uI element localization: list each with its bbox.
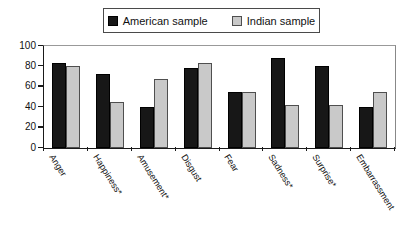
bar-indian-sample-embarrassment <box>373 92 387 148</box>
y-tick-label-60: 60 <box>0 80 36 91</box>
y-tick-40 <box>38 106 43 108</box>
legend-label-indian-sample: Indian sample <box>247 15 316 27</box>
bar-american-sample-embarrassment <box>359 107 373 148</box>
bar-american-sample-disgust <box>184 68 198 148</box>
x-tick-6 <box>306 147 307 151</box>
bar-indian-sample-surprise <box>329 105 343 148</box>
x-tick-label-fear: Fear <box>223 153 240 173</box>
x-tick-2 <box>131 147 132 151</box>
bar-american-sample-anger <box>52 63 66 148</box>
y-tick-100 <box>38 45 43 47</box>
y-tick-label-0: 0 <box>0 142 36 153</box>
legend: American sample Indian sample <box>103 8 320 33</box>
bar-american-sample-happiness <box>96 74 110 148</box>
x-tick-label-anger: Anger <box>47 153 67 178</box>
y-tick-60 <box>38 85 43 87</box>
legend-item-indian-sample: Indian sample <box>232 15 316 27</box>
bar-american-sample-fear <box>228 92 242 148</box>
indian-sample-swatch-icon <box>232 16 242 26</box>
bar-indian-sample-amusement <box>154 79 168 148</box>
y-tick-20 <box>38 126 43 128</box>
bar-indian-sample-happiness <box>110 102 124 148</box>
y-tick-label-40: 40 <box>0 101 36 112</box>
y-tick-label-80: 80 <box>0 60 36 71</box>
american-sample-swatch-icon <box>108 16 118 26</box>
y-tick-label-100: 100 <box>0 40 36 51</box>
bar-american-sample-amusement <box>140 107 154 148</box>
bar-indian-sample-anger <box>66 66 80 148</box>
figure: American sample Indian sample 0204060801… <box>0 0 403 238</box>
legend-item-american-sample: American sample <box>108 15 208 27</box>
bar-indian-sample-sadness <box>285 105 299 148</box>
bar-american-sample-surprise <box>315 66 329 148</box>
legend-label-american-sample: American sample <box>123 15 208 27</box>
y-tick-80 <box>38 65 43 67</box>
x-tick-0 <box>43 147 44 151</box>
x-tick-5 <box>262 147 263 151</box>
x-tick-label-happiness: Happiness* <box>91 153 123 197</box>
x-tick-label-embarrassment: Embarrassment <box>354 153 395 212</box>
x-tick-3 <box>175 147 176 151</box>
bar-american-sample-sadness <box>271 58 285 148</box>
x-tick-label-surprise: Surprise* <box>311 153 338 189</box>
x-tick-label-disgust: Disgust <box>179 153 203 183</box>
bar-indian-sample-fear <box>242 92 256 148</box>
x-tick-8 <box>394 147 395 151</box>
x-tick-7 <box>350 147 351 151</box>
x-tick-1 <box>87 147 88 151</box>
x-tick-label-sadness: Sadness* <box>267 153 295 190</box>
x-tick-4 <box>219 147 220 151</box>
y-tick-label-20: 20 <box>0 121 36 132</box>
bar-indian-sample-disgust <box>198 63 212 148</box>
x-tick-label-amusement: Amusement* <box>135 153 170 201</box>
plot-area <box>43 45 396 149</box>
